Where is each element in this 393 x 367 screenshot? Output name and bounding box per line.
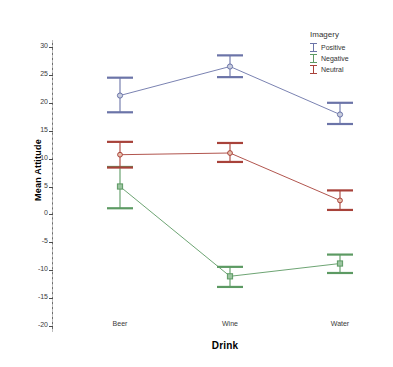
legend-item-positive[interactable]: Positive	[310, 43, 349, 52]
series-neutral	[107, 142, 353, 210]
data-point	[117, 184, 122, 189]
legend-item-neutral[interactable]: Neutral	[310, 65, 349, 74]
data-point	[227, 274, 232, 279]
legend-item-label: Neutral	[321, 66, 344, 73]
data-point	[337, 112, 342, 117]
legend-item-negative[interactable]: Negative	[310, 54, 349, 63]
legend-title: Imagery	[310, 30, 349, 39]
data-point	[337, 261, 342, 266]
data-point	[228, 151, 233, 156]
data-point	[117, 93, 122, 98]
legend-errorbar-icon	[310, 54, 317, 63]
legend-entries: PositiveNegativeNeutral	[310, 43, 349, 74]
legend-item-label: Positive	[321, 44, 346, 51]
mean-attitude-line-chart: Mean Attitude Drink 302520151050-5-10-15…	[0, 0, 393, 367]
series-negative	[107, 167, 353, 287]
legend: Imagery PositiveNegativeNeutral	[310, 30, 349, 76]
legend-item-label: Negative	[321, 55, 349, 62]
data-point	[118, 152, 123, 157]
legend-errorbar-icon	[310, 65, 317, 74]
data-point	[227, 64, 232, 69]
data-point	[338, 198, 343, 203]
legend-errorbar-icon	[310, 43, 317, 52]
series-line	[120, 187, 340, 277]
